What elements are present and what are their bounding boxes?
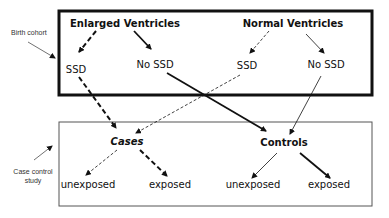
cases-label: Cases bbox=[111, 136, 144, 147]
enlarged-no-ssd-label: No SSD bbox=[136, 59, 173, 70]
controls-label: Controls bbox=[260, 137, 307, 148]
normal-ventricles-label: Normal Ventricles bbox=[243, 18, 344, 29]
controls-unexposed-label: unexposed bbox=[226, 179, 281, 190]
birth-cohort-pointer-arrow bbox=[28, 42, 55, 58]
arrow-normal-to-no-ssd bbox=[306, 34, 324, 53]
enlarged-ssd-label: SSD bbox=[66, 64, 86, 75]
arrow-cases-to-unexposed bbox=[86, 150, 117, 175]
case-control-box bbox=[59, 122, 372, 206]
case-control-label-line1: Case control bbox=[8, 167, 58, 176]
arrow-controls-to-unexposed bbox=[252, 153, 277, 178]
enlarged-ventricles-label: Enlarged Ventricles bbox=[70, 18, 180, 29]
cases-exposed-label: exposed bbox=[149, 179, 191, 190]
arrow-enlarged-to-no-ssd bbox=[134, 31, 151, 49]
arrow-controls-to-exposed bbox=[300, 153, 330, 178]
case-control-label: Case control study bbox=[8, 167, 58, 185]
arrow-normal-to-ssd bbox=[250, 31, 269, 53]
cases-unexposed-label: unexposed bbox=[61, 179, 116, 190]
normal-no-ssd-label: No SSD bbox=[307, 59, 344, 70]
arrow-cases-to-exposed bbox=[140, 150, 167, 176]
arrow-enlarged-to-ssd bbox=[79, 31, 96, 52]
controls-exposed-label: exposed bbox=[308, 179, 350, 190]
normal-ssd-label: SSD bbox=[237, 60, 257, 71]
case-control-pointer-arrow bbox=[34, 146, 52, 160]
arrow-enlarged-ssd-to-cases bbox=[79, 77, 116, 128]
arrow-normal-ssd-to-cases bbox=[136, 75, 240, 133]
birth-cohort-label: Birth cohort bbox=[11, 28, 47, 37]
arrow-normal-no-ssd-to-controls bbox=[290, 76, 321, 134]
case-control-label-line2: study bbox=[8, 176, 58, 185]
